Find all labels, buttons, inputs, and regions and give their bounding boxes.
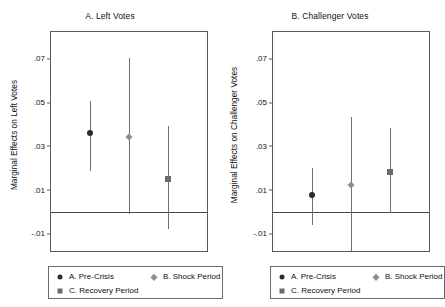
panel-a-legend-label-1: A. Pre-Crisis bbox=[69, 272, 114, 281]
panel-b-ytick-1: .05 bbox=[239, 98, 273, 107]
square-marker-icon bbox=[55, 287, 65, 295]
panel-b-legend-item-shock-period: B. Shock Period bbox=[371, 272, 442, 281]
panel-b-ytick-2: .03 bbox=[239, 141, 273, 150]
panel-b-legend-label-3: C. Recovery Period bbox=[291, 286, 360, 295]
error-bar-pre-crisis bbox=[90, 101, 91, 171]
panel-a-ytick-2: .03 bbox=[17, 141, 51, 150]
panel-b-legend-item-recovery-period: C. Recovery Period bbox=[277, 286, 369, 295]
panel-b-legend-label-1: A. Pre-Crisis bbox=[291, 272, 336, 281]
marker-shock-period bbox=[125, 134, 132, 141]
marker-recovery-period bbox=[165, 176, 171, 182]
diamond-marker-icon bbox=[371, 273, 381, 281]
panel-a-ytick-3: .01 bbox=[17, 185, 51, 194]
marker-recovery-period bbox=[387, 169, 393, 175]
panel-b-legend-item-pre-crisis: A. Pre-Crisis bbox=[277, 272, 369, 281]
panel-b-y-axis-label: Marginal Effects on Challenger Votes bbox=[229, 45, 239, 225]
panel-b-title: B. Challenger Votes bbox=[220, 11, 440, 21]
circle-marker-icon bbox=[55, 273, 65, 281]
panel-a-legend-label-3: C. Recovery Period bbox=[69, 286, 138, 295]
panel-b-ytick-4: -.01 bbox=[239, 229, 273, 238]
panel-a-legend: A. Pre-Crisis B. Shock Period C. Recover… bbox=[48, 266, 223, 299]
panel-left-votes: A. Left Votes Marginal Effects on Left V… bbox=[0, 0, 220, 307]
panel-b-plot-area: .07 .05 .03 .01 -.01 bbox=[272, 31, 430, 252]
panel-a-title: A. Left Votes bbox=[0, 11, 220, 21]
marker-pre-crisis bbox=[87, 130, 93, 136]
panel-a-legend-label-2: B. Shock Period bbox=[163, 272, 220, 281]
panel-a-y-axis-label: Marginal Effects on Left Votes bbox=[9, 45, 19, 225]
diamond-marker-icon bbox=[149, 273, 159, 281]
panel-b-legend: A. Pre-Crisis B. Shock Period C. Recover… bbox=[270, 266, 445, 299]
circle-marker-icon bbox=[277, 273, 287, 281]
panel-a-legend-item-pre-crisis: A. Pre-Crisis bbox=[55, 272, 147, 281]
panel-a-plot-area: .07 .05 .03 .01 -.01 bbox=[50, 31, 208, 252]
panel-b-legend-label-2: B. Shock Period bbox=[385, 272, 442, 281]
panel-b-ytick-0: .07 bbox=[239, 54, 273, 63]
panel-a-ytick-1: .05 bbox=[17, 98, 51, 107]
panel-a-legend-item-recovery-period: C. Recovery Period bbox=[55, 286, 147, 295]
marker-shock-period bbox=[347, 181, 354, 188]
panel-a-ytick-0: .07 bbox=[17, 54, 51, 63]
panel-challenger-votes: B. Challenger Votes Marginal Effects on … bbox=[220, 0, 440, 307]
square-marker-icon bbox=[277, 287, 287, 295]
panel-a-legend-item-shock-period: B. Shock Period bbox=[149, 272, 220, 281]
panel-a-ytick-4: -.01 bbox=[17, 229, 51, 238]
panel-b-ytick-3: .01 bbox=[239, 185, 273, 194]
marker-pre-crisis bbox=[309, 192, 315, 198]
